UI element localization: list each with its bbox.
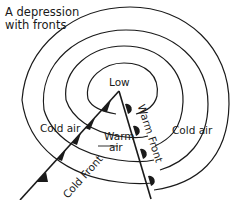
title-line-2: with fronts (5, 19, 79, 32)
cold-front-triangle-icon (36, 172, 48, 182)
depression-diagram: A depression with fronts Low Cold air Co… (0, 0, 230, 200)
cold-air-label-right: Cold air (172, 125, 212, 136)
low-label: Low (109, 77, 130, 88)
warm-front-semicircle-icon (140, 149, 147, 159)
diagram-title: A depression with fronts (5, 6, 79, 32)
cold-air-label-left: Cold air (40, 123, 80, 134)
warm-front-semicircle-icon (148, 176, 155, 186)
cold-front-triangle-icon (72, 133, 81, 145)
warm-air-label-line2: air (109, 142, 123, 153)
cold-front-triangle-icon (57, 149, 66, 161)
cold-front-triangle-icon (101, 100, 111, 112)
isobar-inner-lower (88, 99, 116, 114)
